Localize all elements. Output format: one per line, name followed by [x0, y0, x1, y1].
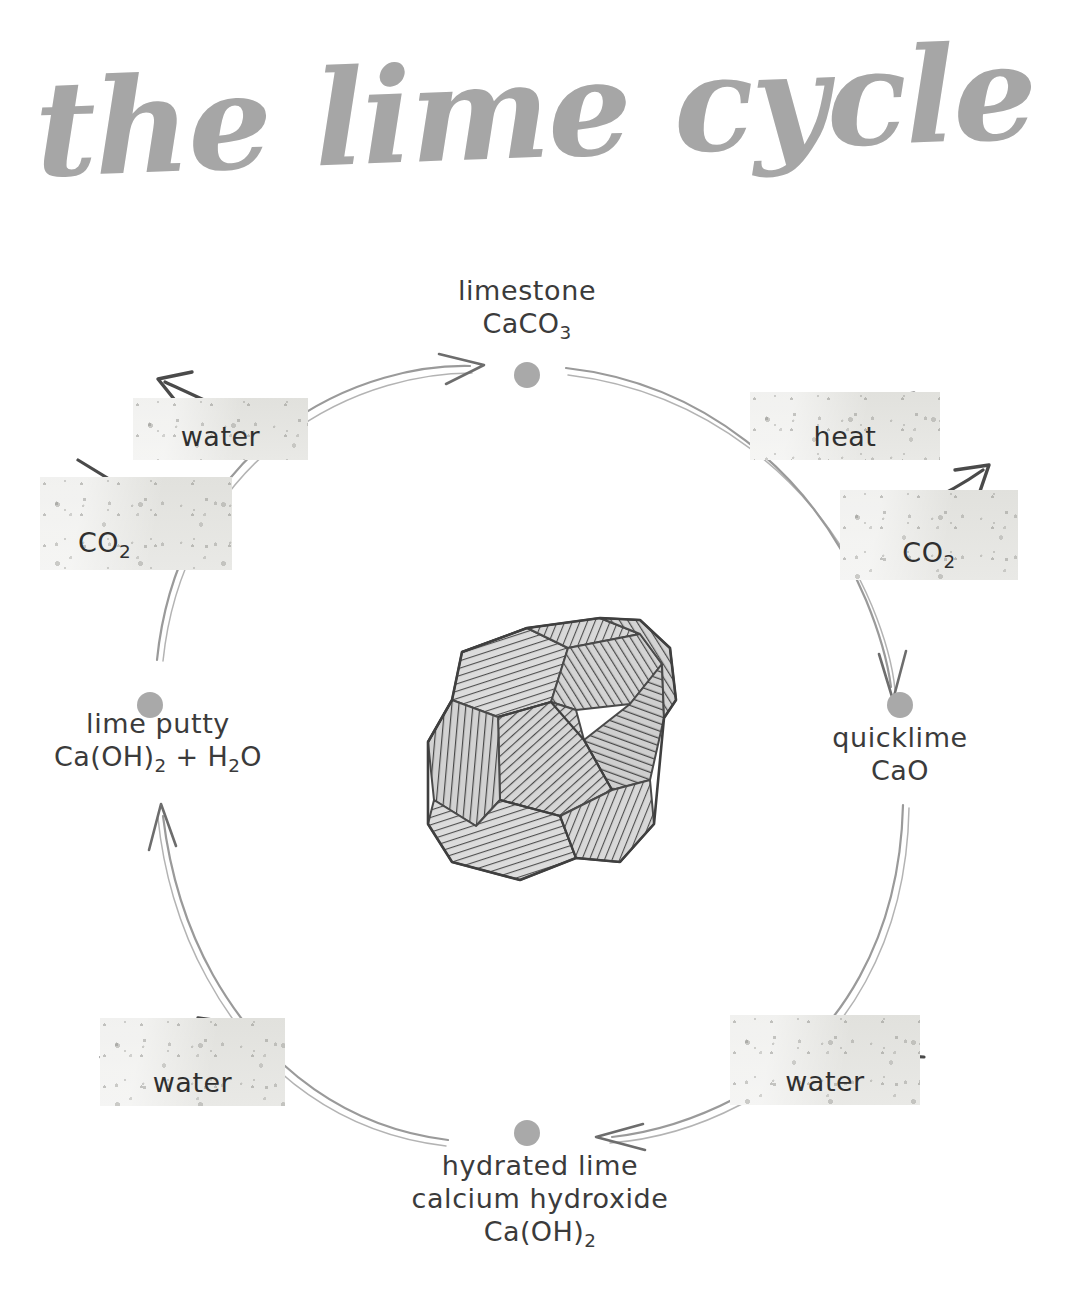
node-formula-limestone: CaCO3 — [367, 308, 687, 345]
node-name-hydrated-lime: hydrated lime — [340, 1150, 740, 1183]
node-label-hydrated-lime: hydrated lime calcium hydroxide Ca(OH)2 — [340, 1150, 740, 1253]
edge-label-text: CO2 — [902, 537, 955, 572]
node-label-quicklime: quicklime CaO — [760, 722, 1040, 788]
node-name-limestone: limestone — [367, 275, 687, 308]
lime-cycle-diagram — [0, 0, 1070, 1307]
edge-label-water-bottom-left: water — [100, 1018, 285, 1106]
edge-label-text: heat — [814, 421, 877, 452]
edge-label-text: water — [181, 421, 260, 452]
edge-label-co2-right: CO2 — [840, 490, 1018, 580]
node-dot-limestone — [514, 362, 540, 388]
edge-label-water-top-left: water — [133, 398, 308, 460]
node-formula-lime-putty: Ca(OH)2 + H2O — [8, 741, 308, 778]
edge-label-water-bottom-right: water — [730, 1015, 920, 1105]
edge-label-text: water — [153, 1067, 232, 1098]
limestone-rock-icon — [428, 618, 676, 880]
edge-label-co2-left: CO2 — [40, 477, 232, 570]
node-dot-quicklime — [887, 692, 913, 718]
edge-label-text: water — [785, 1066, 864, 1097]
node-label-lime-putty: lime putty Ca(OH)2 + H2O — [8, 708, 308, 778]
node-label-limestone: limestone CaCO3 — [367, 275, 687, 345]
node-formula-quicklime: CaO — [760, 755, 1040, 788]
edge-label-heat: heat — [750, 392, 940, 460]
node-name-lime-putty: lime putty — [8, 708, 308, 741]
edge-label-text: CO2 — [78, 527, 131, 562]
node-subtitle-hydrated-lime: calcium hydroxide — [340, 1183, 740, 1216]
node-dot-hydrated-lime — [514, 1120, 540, 1146]
node-name-quicklime: quicklime — [760, 722, 1040, 755]
node-formula-hydrated-lime: Ca(OH)2 — [340, 1216, 740, 1253]
